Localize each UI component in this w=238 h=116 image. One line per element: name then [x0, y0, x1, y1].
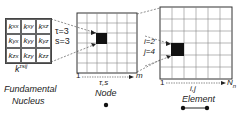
element-axis-start: 1 — [160, 78, 164, 87]
nucleus-caption-line1: Fundamental — [4, 84, 57, 94]
node-axis-start: 1 — [76, 71, 80, 80]
element-axis-end: Nn — [227, 78, 236, 89]
tau-label: τ=3 — [55, 26, 69, 36]
s-label: s=3 — [55, 36, 70, 46]
node-highlight-cell — [96, 33, 107, 44]
i-label: i=2 — [144, 37, 155, 46]
nucleus-symbol: kτsij — [15, 63, 27, 74]
element-axis-label: i,j — [190, 84, 196, 93]
element-highlight-cell — [171, 43, 184, 56]
node-axis-label: τ,s — [99, 78, 108, 87]
element-dot-left-icon — [181, 106, 185, 110]
node-axis-end: m — [136, 71, 143, 80]
node-caption: Node — [95, 88, 117, 98]
nucleus-caption-line2: Nucleus — [12, 96, 45, 106]
element-grid — [160, 7, 232, 79]
element-dot-right-icon — [205, 106, 209, 110]
j-label: j=4 — [144, 47, 155, 56]
element-caption: Element — [182, 94, 215, 104]
node-dot-icon — [104, 103, 108, 107]
